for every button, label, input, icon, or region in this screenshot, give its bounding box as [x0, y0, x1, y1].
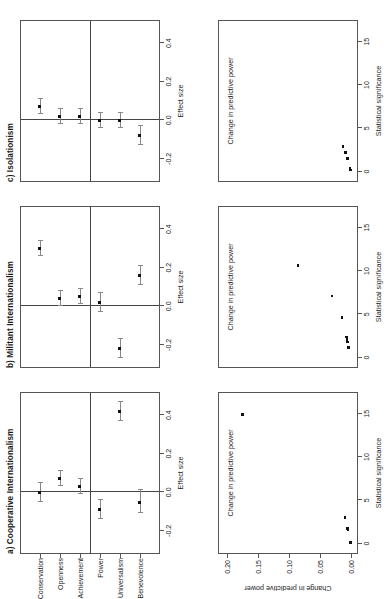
point-estimate: [98, 508, 101, 511]
axis-tick: [358, 84, 362, 85]
axis-tick: [351, 554, 352, 558]
predictive-power-axis-title-outer: Change in predictive power: [244, 584, 331, 593]
point-estimate: [138, 274, 141, 277]
category-tick: [40, 554, 41, 558]
axis-tick: [160, 42, 164, 43]
category-tick: [100, 554, 101, 558]
point-estimate: [78, 115, 81, 118]
confidence-interval-cap: [38, 482, 43, 483]
point-estimate: [38, 491, 41, 494]
panel-a-title: a) Cooperative Internationalism: [6, 429, 15, 555]
axis-tick: [358, 127, 362, 128]
axis-tick: [160, 228, 164, 229]
point-estimate: [138, 501, 141, 504]
confidence-interval-cap: [38, 98, 43, 99]
confidence-interval-cap: [78, 303, 83, 304]
axis-tick: [160, 344, 164, 345]
confidence-interval-cap: [98, 499, 103, 500]
confidence-interval-cap: [138, 144, 143, 145]
axis-tick: [358, 313, 362, 314]
reference-line-zero: [90, 207, 91, 367]
scatter-point: [341, 316, 344, 319]
axis-tick: [160, 267, 164, 268]
axis-tick-label: 0.2: [165, 77, 172, 87]
axis-tick-label: 0.0: [165, 115, 172, 125]
panel-c-scatter-plot: [218, 20, 358, 182]
category-tick: [120, 554, 121, 558]
category-label-1: Conservation: [37, 558, 44, 599]
scatter-point: [344, 516, 347, 519]
confidence-interval-cap: [78, 123, 83, 124]
axis-tick: [258, 554, 259, 558]
axis-tick-label: 0.05: [316, 560, 323, 574]
confidence-interval-cap: [138, 284, 143, 285]
confidence-interval-cap: [118, 420, 123, 421]
scatter-point: [331, 295, 334, 298]
confidence-interval-cap: [98, 127, 103, 128]
predictive-power-axis-title: Change in predictive power: [226, 429, 235, 516]
scatter-point: [346, 527, 349, 530]
confidence-interval-cap: [78, 478, 83, 479]
axis-tick: [320, 554, 321, 558]
point-estimate: [58, 297, 61, 300]
axis-tick-label: 0: [363, 542, 370, 546]
scatter-point: [344, 151, 347, 154]
panel-c-title: c) Isolationism: [6, 123, 15, 182]
reference-line-zero: [90, 21, 91, 181]
axis-tick-label: 0.10: [285, 560, 292, 574]
axis-tick-label: -0.2: [165, 339, 172, 351]
confidence-interval-cap: [58, 108, 63, 109]
axis-tick-label: 10: [363, 81, 370, 89]
confidence-interval-cap: [58, 290, 63, 291]
predictive-power-axis-title: Change in predictive power: [226, 243, 235, 330]
point-estimate: [58, 115, 61, 118]
confidence-interval-cap: [98, 518, 103, 519]
axis-tick-label: 0.2: [165, 449, 172, 459]
axis-tick-label: 0.00: [347, 560, 354, 574]
point-estimate: [118, 410, 121, 413]
axis-tick-label: 5: [363, 312, 370, 316]
axis-tick: [160, 81, 164, 82]
axis-tick: [358, 171, 362, 172]
confidence-interval-cap: [78, 493, 83, 494]
axis-tick: [160, 119, 164, 120]
confidence-interval-cap: [78, 288, 83, 289]
axis-tick: [358, 499, 362, 500]
confidence-interval-cap: [58, 305, 63, 306]
scatter-point: [347, 346, 350, 349]
significance-axis-title: Statistical significance: [374, 252, 383, 322]
confidence-interval-cap: [58, 123, 63, 124]
scatter-point: [241, 413, 244, 416]
significance-axis-title: Statistical significance: [374, 438, 383, 508]
confidence-interval-cap: [118, 127, 123, 128]
effect-size-axis-title: Effect size: [176, 456, 185, 489]
scatter-point: [346, 157, 349, 160]
point-estimate: [118, 347, 121, 350]
axis-tick-label: -0.2: [165, 525, 172, 537]
confidence-interval-cap: [38, 255, 43, 256]
confidence-interval-cap: [138, 265, 143, 266]
point-estimate: [138, 134, 141, 137]
plot-frame: [218, 392, 358, 554]
confidence-interval-cap: [78, 108, 83, 109]
confidence-interval-cap: [138, 489, 143, 490]
axis-tick-label: 5: [363, 498, 370, 502]
category-label-2: Openness: [57, 558, 64, 590]
confidence-interval-cap: [38, 240, 43, 241]
axis-tick-label: 0.15: [255, 560, 262, 574]
confidence-interval-cap: [118, 112, 123, 113]
category-label-5: Universalism: [117, 558, 124, 598]
point-estimate: [38, 247, 41, 250]
point-estimate: [78, 485, 81, 488]
axis-tick-label: 0: [363, 170, 370, 174]
axis-tick: [358, 456, 362, 457]
confidence-interval-cap: [118, 357, 123, 358]
confidence-interval-cap: [118, 401, 123, 402]
axis-tick: [358, 413, 362, 414]
axis-tick: [160, 414, 164, 415]
axis-tick-label: 15: [363, 224, 370, 232]
axis-tick-label: 10: [363, 453, 370, 461]
point-estimate: [38, 105, 41, 108]
point-estimate: [58, 477, 61, 480]
